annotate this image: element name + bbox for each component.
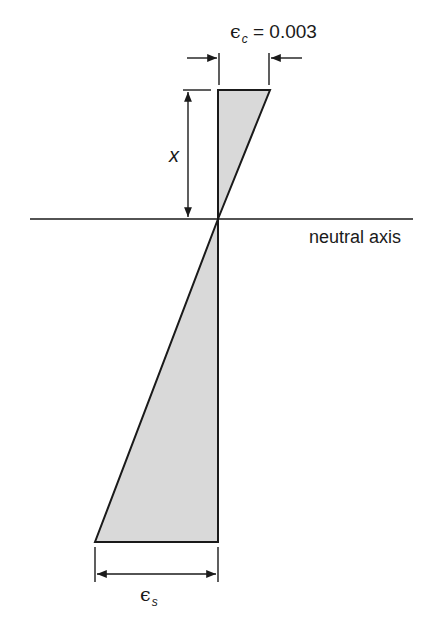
depth-label: x <box>169 145 179 165</box>
subscript-s: s <box>152 595 158 609</box>
neutral-axis-label: neutral axis <box>309 228 401 246</box>
epsilon-symbol: ϵ <box>140 583 151 605</box>
epsilon-symbol: ϵ <box>230 20 241 42</box>
strain-diagram <box>0 0 446 632</box>
subscript-c: c <box>242 32 248 46</box>
compression-strain-region <box>218 90 270 219</box>
strain-value: 0.003 <box>269 21 317 42</box>
equals-sign: = <box>253 21 264 42</box>
steel-strain-label: ϵs <box>140 585 158 604</box>
tension-strain-region <box>95 219 218 542</box>
concrete-strain-label: ϵc = 0.003 <box>230 22 317 41</box>
